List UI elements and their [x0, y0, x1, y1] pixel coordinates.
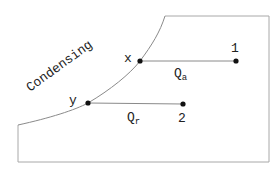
label-qr: Qr [127, 110, 140, 127]
qr-subscript: r [135, 117, 140, 127]
qr-symbol: Q [127, 110, 135, 125]
point-1 [233, 58, 238, 63]
condensing-diagram: Condensing x 1 y 2 Qa Qr [0, 0, 280, 183]
curve-label: Condensing [24, 37, 96, 95]
qa-subscript: a [182, 73, 188, 83]
point-x [137, 58, 142, 63]
point-2 [180, 101, 185, 106]
label-1: 1 [231, 41, 239, 56]
point-y [85, 100, 90, 105]
label-x: x [124, 51, 132, 66]
qa-symbol: Q [174, 66, 182, 81]
qr-line [88, 103, 183, 104]
label-qa: Qa [174, 66, 188, 83]
label-y: y [69, 93, 77, 108]
region-boundary [18, 16, 269, 162]
label-2: 2 [178, 111, 186, 126]
